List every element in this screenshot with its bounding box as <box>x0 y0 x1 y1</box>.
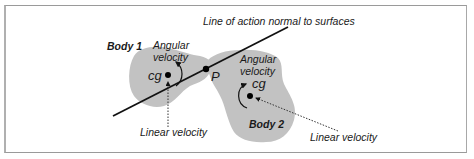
body2-angular-label-line1: Angular <box>239 53 277 65</box>
body1-cg-dot <box>165 72 171 78</box>
body1-linear-label: Linear velocity <box>140 126 208 138</box>
body2-cg-dot <box>247 93 253 99</box>
diagram-title: Line of action normal to surfaces <box>203 15 355 27</box>
body2-linear-label: Linear velocity <box>310 131 378 143</box>
body1-angular-label-line1: Angular <box>152 39 190 51</box>
body1-cg-label: cg <box>148 68 163 83</box>
collision-diagram: Line of action normal to surfaces Body 1… <box>0 0 474 159</box>
contact-point-label: P <box>211 69 220 84</box>
diagram-canvas: Line of action normal to surfaces Body 1… <box>0 0 474 159</box>
body1-angular-label-line2: velocity <box>153 51 189 63</box>
contact-point-dot <box>203 66 209 72</box>
body2-label: Body 2 <box>249 118 284 130</box>
body1-label: Body 1 <box>107 40 142 52</box>
body2-cg-label: cg <box>252 76 267 91</box>
